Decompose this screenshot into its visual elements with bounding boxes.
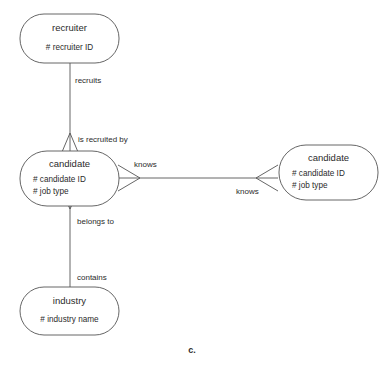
entity-recruiter-title: recruiter	[52, 22, 87, 33]
relationship-label-contains: contains	[77, 273, 107, 282]
crowsfoot-is-recruited-by	[62, 133, 78, 152]
entity-industry-attribute-0: # industry name	[40, 315, 99, 324]
entity-recruiter[interactable]: recruiter # recruiter ID	[20, 14, 119, 63]
entity-candidate-right-title: candidate	[308, 152, 349, 163]
relationship-label-knows-left: knows	[134, 160, 157, 169]
entity-recruiter-attribute-0: # recruiter ID	[46, 43, 93, 52]
entity-candidate-left[interactable]: candidate # candidate ID # job type	[20, 151, 119, 206]
crowsfoot-knows-right	[256, 165, 278, 191]
figure-caption: c.	[188, 345, 196, 355]
entity-candidate-left-attribute-1: # job type	[33, 187, 69, 196]
relationship-label-knows-right: knows	[236, 187, 259, 196]
er-diagram: recruiter # recruiter ID candidate # can…	[0, 0, 387, 367]
entity-candidate-left-attribute-0: # candidate ID	[33, 175, 86, 184]
entity-industry-title: industry	[53, 295, 87, 306]
entity-candidate-right-attribute-0: # candidate ID	[292, 169, 345, 178]
entity-industry[interactable]: industry # industry name	[20, 287, 119, 335]
entity-candidate-left-title: candidate	[49, 158, 90, 169]
relationship-label-recruits: recruits	[75, 76, 101, 85]
relationship-label-is-recruited-by: is recruited by	[78, 135, 128, 144]
relationship-label-belongs-to: belongs to	[77, 217, 114, 226]
entity-candidate-right[interactable]: candidate # candidate ID # job type	[279, 145, 378, 200]
entity-candidate-right-attribute-1: # job type	[292, 181, 328, 190]
